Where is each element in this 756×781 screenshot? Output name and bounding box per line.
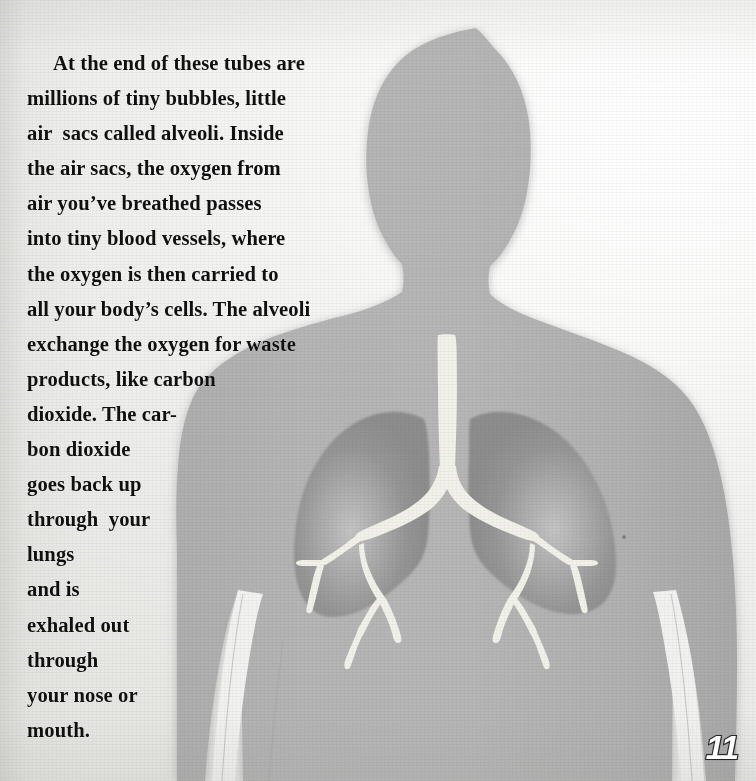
text-line: exhaled out <box>27 608 343 643</box>
paper-speck <box>622 535 625 538</box>
book-page: At the end of these tubes are millions o… <box>0 0 756 781</box>
text-line: dioxide. The car- <box>27 397 343 432</box>
text-line: your nose or <box>27 678 343 713</box>
text-line: millions of tiny bubbles, little <box>27 81 343 116</box>
text-line: At the end of these tubes are <box>27 46 343 81</box>
text-line: lungs <box>27 537 343 572</box>
text-line: air sacs called alveoli. Inside <box>27 116 343 151</box>
text-line: exchange the oxygen for waste <box>27 327 343 362</box>
text-line: air you’ve breathed passes <box>27 186 343 221</box>
text-line: into tiny blood vessels, where <box>27 221 343 256</box>
text-line: bon dioxide <box>27 432 343 467</box>
text-line: goes back up <box>27 467 343 502</box>
text-line: products, like carbon <box>27 362 343 397</box>
text-line: and is <box>27 572 343 607</box>
text-line: mouth. <box>27 713 343 748</box>
text-line: the oxygen is then carried to <box>27 257 343 292</box>
text-line: through your <box>27 502 343 537</box>
text-line: all your body’s cells. The alveoli <box>27 292 343 327</box>
page-number: 11 <box>706 729 738 767</box>
body-paragraph: At the end of these tubes are millions o… <box>27 46 343 748</box>
trachea <box>438 334 457 470</box>
text-line: the air sacs, the oxygen from <box>27 151 343 186</box>
text-line: through <box>27 643 343 678</box>
